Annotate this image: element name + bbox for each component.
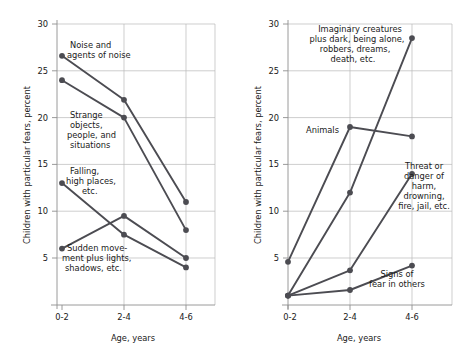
right-annotation-imaginary-creatures: Imaginary creatures plus dark, being alo… (310, 24, 405, 64)
svg-text:etc.: etc. (82, 186, 98, 196)
data-point (347, 190, 353, 196)
data-point (347, 287, 353, 293)
svg-text:harm,: harm, (412, 181, 436, 191)
right-annotation-animals: Animals (306, 125, 339, 135)
svg-text:Strange: Strange (70, 110, 103, 120)
left-y-axis-title: Children with particular fears, percent (22, 85, 32, 244)
svg-text:plus dark, being alone,: plus dark, being alone, (310, 34, 405, 44)
svg-text:shadows, etc.: shadows, etc. (65, 263, 122, 273)
data-point (121, 232, 127, 238)
left-y-tick-5: 5 (43, 253, 48, 263)
right-annotation-signs-of-fear: Signs of fear in others (369, 269, 425, 289)
svg-text:agents of noise: agents of noise (67, 50, 131, 60)
svg-text:Animals: Animals (306, 125, 339, 135)
left-x-tick-marks (62, 305, 186, 310)
data-point (59, 180, 65, 186)
right-x-tick-0-2: 0-2 (283, 312, 297, 322)
svg-text:fear in others: fear in others (369, 279, 425, 289)
data-point (121, 213, 127, 219)
left-y-tick-marks (52, 24, 57, 258)
left-annotation-sudden-movement: Sudden move- ment plus lights, shadows, … (62, 243, 131, 273)
data-point (183, 265, 189, 271)
svg-text:high places,: high places, (66, 176, 116, 186)
svg-text:drowning,: drowning, (403, 191, 444, 201)
left-y-tick-20: 20 (37, 113, 48, 123)
data-point (121, 115, 127, 121)
left-chart-svg: 30 25 20 15 10 5 0-2 2-4 4-6 Age, years … (0, 0, 238, 352)
left-x-tick-4-6: 4-6 (179, 312, 193, 322)
svg-text:robbers, dreams,: robbers, dreams, (320, 44, 391, 54)
svg-text:fire, jail, etc.: fire, jail, etc. (398, 201, 450, 211)
right-x-tick-4-6: 4-6 (405, 312, 419, 322)
svg-text:Falling,: Falling, (70, 166, 99, 176)
right-x-axis-title: Age, years (337, 333, 381, 343)
data-point (183, 227, 189, 233)
left-y-tick-15: 15 (37, 159, 48, 169)
data-point (285, 259, 291, 265)
right-y-tick-10: 10 (268, 206, 279, 216)
left-y-tick-30: 30 (37, 19, 48, 29)
data-point (59, 77, 65, 83)
left-y-tick-10: 10 (37, 206, 48, 216)
data-point (409, 263, 415, 269)
data-point (183, 199, 189, 205)
svg-text:people, and: people, and (67, 130, 116, 140)
right-annotation-threat-danger: Threat or danger of harm, drowning, fire… (398, 161, 450, 211)
right-chart-svg: 30 25 20 15 10 5 0-2 2-4 4-6 Age, years … (237, 0, 475, 352)
left-annotation-noise: Noise and agents of noise (67, 40, 131, 60)
svg-text:Noise and: Noise and (70, 40, 111, 50)
svg-text:danger of: danger of (404, 171, 445, 181)
data-point (285, 293, 291, 299)
data-point (59, 246, 65, 252)
data-point (409, 35, 415, 41)
svg-text:Imaginary creatures: Imaginary creatures (318, 24, 402, 34)
svg-text:death, etc.: death, etc. (331, 54, 376, 64)
svg-text:Signs of: Signs of (380, 269, 414, 279)
data-point (121, 97, 127, 103)
right-y-tick-marks (283, 24, 288, 258)
right-y-tick-15: 15 (268, 159, 279, 169)
data-point (347, 124, 353, 130)
svg-text:Threat or: Threat or (404, 161, 444, 171)
svg-text:objects,: objects, (70, 120, 103, 130)
chart-panel-right: 30 25 20 15 10 5 0-2 2-4 4-6 Age, years … (237, 0, 475, 352)
fears-by-age-figure: 30 25 20 15 10 5 0-2 2-4 4-6 Age, years … (0, 0, 475, 352)
right-x-tick-marks (288, 305, 412, 310)
data-point (59, 53, 65, 59)
chart-panel-left: 30 25 20 15 10 5 0-2 2-4 4-6 Age, years … (0, 0, 238, 352)
right-y-tick-5: 5 (274, 253, 279, 263)
svg-text:situations: situations (70, 140, 110, 150)
left-x-tick-2-4: 2-4 (117, 312, 131, 322)
right-y-tick-30: 30 (268, 19, 279, 29)
left-x-tick-0-2: 0-2 (55, 312, 69, 322)
left-y-tick-25: 25 (37, 66, 48, 76)
data-point (409, 134, 415, 140)
data-point (347, 267, 353, 273)
right-y-tick-20: 20 (268, 113, 279, 123)
data-point (183, 255, 189, 261)
svg-text:Sudden move-: Sudden move- (67, 243, 127, 253)
svg-text:ment plus lights,: ment plus lights, (62, 253, 131, 263)
left-x-axis-title: Age, years (111, 333, 155, 343)
right-y-axis-title: Children with particular fears, percent (253, 85, 263, 244)
right-x-tick-2-4: 2-4 (343, 312, 357, 322)
right-y-tick-25: 25 (268, 66, 279, 76)
left-annotation-strange-objects: Strange objects, people, and situations (67, 110, 116, 150)
